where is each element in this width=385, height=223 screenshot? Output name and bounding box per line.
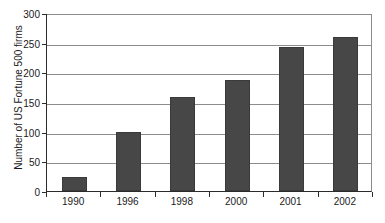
bar [62,177,87,191]
y-axis-tick-mark [42,103,47,104]
bar [116,132,141,191]
bar-slot [62,15,87,191]
x-axis-tick-mark [46,192,47,197]
bar [225,80,250,191]
x-axis-tick-label: 1996 [116,196,138,207]
bar-slot [116,15,141,191]
x-axis-tick-mark [209,192,210,197]
y-axis-tick-label: 100 [0,127,40,138]
x-axis-tick-mark [155,192,156,197]
x-axis-tick-label: 1998 [171,196,193,207]
y-axis-tick-label: 150 [0,98,40,109]
bars-layer [47,15,371,191]
y-axis-tick-label: 200 [0,68,40,79]
x-axis-tick-label: 2002 [334,196,356,207]
y-axis-tick-mark [42,133,47,134]
bar [279,47,304,191]
y-axis-tick-label: 0 [0,187,40,198]
x-axis-tick-label: 2000 [225,196,247,207]
y-axis-tick-mark [42,44,47,45]
bar-chart: Number of US Fortune 500 firms 050100150… [0,0,385,223]
y-axis-tick-label: 250 [0,38,40,49]
bar-slot [170,15,195,191]
bar-slot [333,15,358,191]
x-axis-tick-mark [100,192,101,197]
y-axis-tick-label: 300 [0,9,40,20]
y-axis-tick-mark [42,162,47,163]
x-axis-tick-label: 2001 [279,196,301,207]
x-axis-tick-label: 1990 [62,196,84,207]
y-axis-tick-label: 50 [0,157,40,168]
bar [333,37,358,191]
y-axis-tick-mark [42,73,47,74]
y-axis-tick-mark [42,14,47,15]
bar-slot [225,15,250,191]
x-axis-tick-mark [318,192,319,197]
x-axis-tick-mark [372,192,373,197]
bar-slot [279,15,304,191]
bar [170,97,195,191]
plot-area [46,14,372,192]
x-axis-tick-mark [263,192,264,197]
